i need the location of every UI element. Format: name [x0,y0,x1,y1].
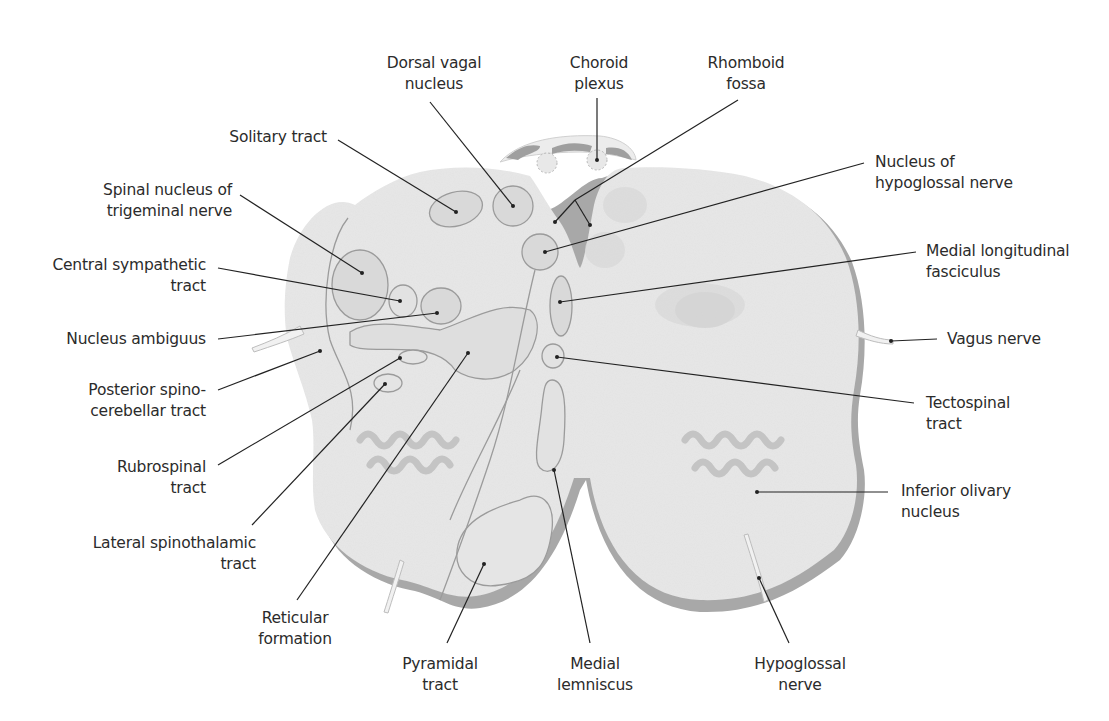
label-spinal-nucleus-trigeminal: Spinal nucleus of trigeminal nerve [60,180,232,222]
rubrospinal-region [374,374,402,392]
spinal-trigeminal-nucleus-region [332,250,388,320]
label-nucleus-of-hypoglossal-nerve: Nucleus of hypoglossal nerve [875,152,1055,194]
choroid-plexus-structure [500,136,636,173]
label-central-sympathetic-tract: Central sympathetic tract [20,255,206,297]
label-nucleus-ambiguus: Nucleus ambiguus [20,329,206,350]
central-sympathetic-region [389,285,417,317]
mlf-region [550,276,572,336]
label-rubrospinal-tract: Rubrospinal tract [20,457,206,499]
label-dorsal-vagal-nucleus: Dorsal vagal nucleus [374,53,494,95]
label-medial-lemniscus: Medial lemniscus [545,654,645,696]
label-choroid-plexus: Choroid plexus [554,53,644,95]
label-tectospinal-tract: Tectospinal tract [926,393,1066,435]
label-pyramidal-tract: Pyramidal tract [390,654,490,696]
label-solitary-tract: Solitary tract [170,127,327,148]
label-rhomboid-fossa: Rhomboid fossa [696,53,796,95]
label-reticular-formation: Reticular formation [240,608,350,650]
label-hypoglossal-nerve: Hypoglossal nerve [740,654,860,696]
medulla-cross-section-diagram [0,0,1109,721]
label-vagus-nerve: Vagus nerve [947,329,1087,350]
label-medial-longitudinal-fasciculus: Medial longitudinal fasciculus [926,241,1106,283]
posterior-spinocerebellar-region [399,350,427,364]
label-lateral-spinothalamic-tract: Lateral spinothalamic tract [20,533,256,575]
label-inferior-olivary-nucleus: Inferior olivary nucleus [901,481,1071,523]
nucleus-ambiguus-region [421,288,461,324]
tectospinal-region [542,344,564,368]
label-posterior-spinocerebellar-tract: Posterior spino- cerebellar tract [20,380,206,422]
hypoglossal-nucleus-region [522,234,558,270]
